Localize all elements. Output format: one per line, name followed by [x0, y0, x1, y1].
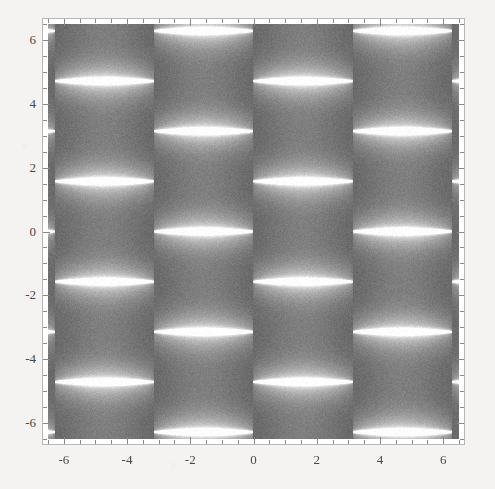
- y-axis-tick: [460, 200, 464, 201]
- y-axis-tick: [43, 184, 47, 185]
- y-axis-tick: [457, 232, 464, 233]
- x-axis-tick: [443, 19, 444, 26]
- x-axis-tick: [348, 440, 349, 444]
- y-axis-tick: [43, 56, 47, 57]
- y-tick-label: 6: [14, 32, 36, 48]
- x-axis-tick: [174, 19, 175, 23]
- y-axis-tick: [43, 88, 47, 89]
- y-tick-label: -2: [14, 287, 36, 303]
- y-axis-tick: [460, 279, 464, 280]
- x-axis-tick: [159, 19, 160, 23]
- x-axis-tick: [412, 440, 413, 444]
- x-axis-tick: [222, 19, 223, 23]
- x-axis-tick: [459, 19, 460, 23]
- y-axis-tick: [43, 40, 50, 41]
- x-axis-tick: [222, 440, 223, 444]
- density-plot-figure: -6-4-20246 6420-2-4-6: [0, 0, 495, 489]
- x-axis-tick: [206, 440, 207, 444]
- y-axis-tick: [460, 56, 464, 57]
- y-axis-tick: [460, 24, 464, 25]
- x-axis-tick: [80, 19, 81, 23]
- y-axis-tick: [460, 136, 464, 137]
- x-tick-label: 0: [250, 452, 257, 468]
- x-axis-tick: [80, 440, 81, 444]
- y-axis-tick: [460, 120, 464, 121]
- x-axis-tick: [301, 19, 302, 23]
- y-axis-tick: [43, 391, 47, 392]
- x-axis-tick: [254, 437, 255, 444]
- x-axis-tick: [269, 440, 270, 444]
- x-axis-tick: [459, 440, 460, 444]
- y-axis-tick: [43, 72, 47, 73]
- y-axis-tick: [457, 359, 464, 360]
- y-axis-tick: [43, 120, 47, 121]
- x-axis-tick: [412, 19, 413, 23]
- x-axis-tick: [317, 437, 318, 444]
- y-axis-tick: [43, 168, 50, 169]
- x-axis-tick: [190, 19, 191, 26]
- y-axis-tick: [43, 104, 50, 105]
- x-axis-tick: [127, 437, 128, 444]
- x-axis-tick: [111, 440, 112, 444]
- x-axis-tick: [127, 19, 128, 26]
- x-axis-tick: [396, 440, 397, 444]
- y-axis-tick: [460, 343, 464, 344]
- y-axis-tick: [460, 375, 464, 376]
- x-axis-tick: [95, 440, 96, 444]
- y-axis-tick: [43, 327, 47, 328]
- x-axis-tick: [159, 440, 160, 444]
- y-axis-tick: [43, 136, 47, 137]
- y-axis-tick: [43, 216, 47, 217]
- y-axis-tick: [43, 343, 47, 344]
- y-tick-label: -4: [14, 351, 36, 367]
- x-axis-tick: [348, 19, 349, 23]
- x-axis-tick: [285, 19, 286, 23]
- x-axis-tick: [443, 437, 444, 444]
- x-axis-tick: [111, 19, 112, 23]
- x-axis-tick: [238, 19, 239, 23]
- x-tick-label: 4: [377, 452, 384, 468]
- x-axis-tick: [285, 440, 286, 444]
- x-axis-tick: [95, 19, 96, 23]
- y-axis-tick: [460, 247, 464, 248]
- y-axis-tick: [460, 152, 464, 153]
- x-axis-tick: [48, 440, 49, 444]
- x-axis-tick: [380, 19, 381, 26]
- x-axis-tick: [364, 440, 365, 444]
- y-tick-label: -6: [14, 415, 36, 431]
- x-axis-tick: [380, 437, 381, 444]
- y-axis-tick: [460, 216, 464, 217]
- y-axis-tick: [460, 439, 464, 440]
- y-axis-tick: [457, 104, 464, 105]
- x-axis-tick: [64, 19, 65, 26]
- y-axis-tick: [460, 311, 464, 312]
- x-axis-tick: [143, 440, 144, 444]
- y-axis-tick: [457, 40, 464, 41]
- y-axis-tick: [43, 232, 50, 233]
- y-axis-tick: [43, 152, 47, 153]
- y-tick-label: 4: [14, 96, 36, 112]
- y-axis-tick: [457, 423, 464, 424]
- y-axis-tick: [43, 200, 47, 201]
- y-axis-tick: [460, 407, 464, 408]
- y-axis-tick: [43, 295, 50, 296]
- x-axis-tick: [317, 19, 318, 26]
- x-axis-tick: [333, 440, 334, 444]
- y-axis-tick: [460, 88, 464, 89]
- y-axis-tick: [43, 439, 47, 440]
- y-axis-tick: [43, 263, 47, 264]
- y-axis-tick: [457, 168, 464, 169]
- y-axis-tick: [43, 359, 50, 360]
- x-tick-label: 2: [313, 452, 320, 468]
- x-axis-tick: [396, 19, 397, 23]
- x-axis-tick: [174, 440, 175, 444]
- x-axis-tick: [427, 19, 428, 23]
- y-axis-tick: [457, 295, 464, 296]
- x-axis-tick: [143, 19, 144, 23]
- y-axis-tick: [43, 279, 47, 280]
- x-axis-tick: [333, 19, 334, 23]
- y-axis-tick: [460, 184, 464, 185]
- x-axis-tick: [364, 19, 365, 23]
- density-raster: [48, 24, 459, 439]
- x-tick-label: -6: [58, 452, 69, 468]
